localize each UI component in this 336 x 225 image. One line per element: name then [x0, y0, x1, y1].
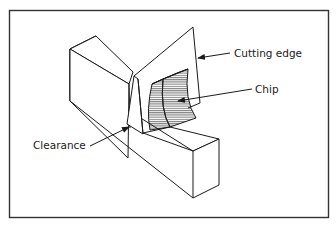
cutting-diagram: Cutting edge Chip Clearance [0, 0, 336, 225]
cutting-edge-label: Cutting edge [234, 47, 302, 59]
cutting-edge-leader [198, 53, 230, 58]
clearance-label: Clearance [33, 139, 86, 151]
chip-label: Chip [255, 83, 279, 95]
workpiece [70, 36, 219, 198]
chip-leader [178, 89, 252, 101]
